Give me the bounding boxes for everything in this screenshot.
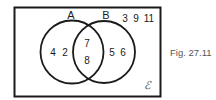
intersection-element: 8 bbox=[84, 55, 90, 66]
intersection-element: 7 bbox=[84, 38, 90, 49]
outside-element: 11 bbox=[144, 13, 155, 24]
universal-set-symbol: ℰ bbox=[144, 79, 152, 92]
outside-element: 9 bbox=[133, 13, 139, 24]
a-only-element: 4 bbox=[50, 47, 56, 58]
figure-caption: Fig. 27.11 bbox=[170, 47, 212, 58]
set-b-label: B bbox=[102, 9, 109, 21]
set-a-label: A bbox=[67, 9, 75, 21]
b-only-element: 6 bbox=[120, 47, 126, 58]
b-only-element: 5 bbox=[109, 47, 115, 58]
outside-element: 3 bbox=[122, 13, 128, 24]
a-only-element: 2 bbox=[62, 47, 68, 58]
venn-diagram: A B 4 2 7 8 5 6 3 9 11 ℰ Fig. 27.11 bbox=[0, 0, 216, 100]
